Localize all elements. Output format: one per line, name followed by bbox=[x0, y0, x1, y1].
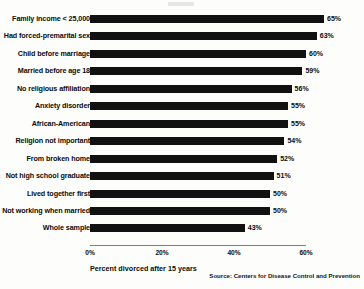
bar-fill bbox=[90, 85, 292, 93]
bar-value-label: 65% bbox=[327, 13, 341, 25]
bar bbox=[90, 190, 270, 198]
bar-row: Not working when married50% bbox=[0, 205, 364, 217]
bar-row: Lived together first50% bbox=[0, 188, 364, 200]
bar-fill bbox=[90, 172, 274, 180]
bar-category-label: Lived together first bbox=[0, 188, 90, 200]
bar bbox=[90, 102, 288, 110]
bar-category-label: Anxiety disorder bbox=[0, 100, 90, 112]
bar bbox=[90, 120, 288, 128]
bar-chart-figure: Family income < 25,00065%Had forced-prem… bbox=[0, 0, 364, 289]
bar-fill bbox=[90, 155, 277, 163]
bar-row: Had forced-premarital sex63% bbox=[0, 30, 364, 42]
bar-value-label: 51% bbox=[277, 170, 291, 182]
bar-category-label: Had forced-premarital sex bbox=[0, 30, 90, 42]
bar-fill bbox=[90, 32, 317, 40]
bar-value-label: 54% bbox=[287, 135, 301, 147]
bar bbox=[90, 155, 277, 163]
bar-row: Family income < 25,00065% bbox=[0, 13, 364, 25]
bar-category-label: Married before age 18 bbox=[0, 65, 90, 77]
bar-row: Whole sample43% bbox=[0, 222, 364, 234]
bar bbox=[90, 67, 302, 75]
plot-area: Family income < 25,00065%Had forced-prem… bbox=[0, 0, 364, 289]
bar-category-label: Family income < 25,000 bbox=[0, 13, 90, 25]
bar-fill bbox=[90, 15, 324, 23]
bar-row: No religious affiliation56% bbox=[0, 83, 364, 95]
bar-fill bbox=[90, 190, 270, 198]
bar-value-label: 43% bbox=[248, 222, 262, 234]
x-axis-tick-label: 20% bbox=[155, 249, 168, 256]
bar-fill bbox=[90, 137, 284, 145]
bar-fill bbox=[90, 50, 306, 58]
bar bbox=[90, 207, 270, 215]
bar bbox=[90, 50, 306, 58]
bar-category-label: No religious affiliation bbox=[0, 83, 90, 95]
bar-row: Not high school graduate51% bbox=[0, 170, 364, 182]
bar-value-label: 63% bbox=[320, 30, 334, 42]
bar-category-label: Not working when married bbox=[0, 205, 90, 217]
bar-row: From broken home52% bbox=[0, 153, 364, 165]
bar-value-label: 60% bbox=[309, 48, 323, 60]
bar-fill bbox=[90, 224, 245, 232]
bar-row: Married before age 1859% bbox=[0, 65, 364, 77]
x-axis-tick-label: 0% bbox=[85, 249, 95, 256]
x-axis-tick-label: 40% bbox=[227, 249, 240, 256]
bar bbox=[90, 172, 274, 180]
bar-category-label: From broken home bbox=[0, 153, 90, 165]
bar-fill bbox=[90, 207, 270, 215]
bar-category-label: Religion not important bbox=[0, 135, 90, 147]
bar-value-label: 56% bbox=[295, 83, 309, 95]
bar bbox=[90, 15, 324, 23]
x-axis-line bbox=[90, 245, 306, 246]
bar-row: Child before marriage60% bbox=[0, 48, 364, 60]
bar bbox=[90, 224, 245, 232]
bar-row: African-American55% bbox=[0, 118, 364, 130]
bar-category-label: African-American bbox=[0, 118, 90, 130]
bar bbox=[90, 85, 292, 93]
bar-value-label: 55% bbox=[291, 118, 305, 130]
bar-fill bbox=[90, 67, 302, 75]
bar bbox=[90, 137, 284, 145]
bar-fill bbox=[90, 102, 288, 110]
bar-fill bbox=[90, 120, 288, 128]
bar-value-label: 52% bbox=[280, 153, 294, 165]
bar-category-label: Whole sample bbox=[0, 222, 90, 234]
bar-row: Religion not important54% bbox=[0, 135, 364, 147]
bar-value-label: 55% bbox=[291, 100, 305, 112]
x-axis-tick-label: 60% bbox=[299, 249, 312, 256]
bar-row: Anxiety disorder55% bbox=[0, 100, 364, 112]
bar bbox=[90, 32, 317, 40]
bar-value-label: 59% bbox=[305, 65, 319, 77]
bar-category-label: Child before marriage bbox=[0, 48, 90, 60]
x-axis-title: Percent divorced after 15 years bbox=[90, 264, 197, 273]
source-note: Source: Centers for Disease Control and … bbox=[209, 272, 360, 279]
bar-value-label: 50% bbox=[273, 188, 287, 200]
bar-value-label: 50% bbox=[273, 205, 287, 217]
bar-category-label: Not high school graduate bbox=[0, 170, 90, 182]
